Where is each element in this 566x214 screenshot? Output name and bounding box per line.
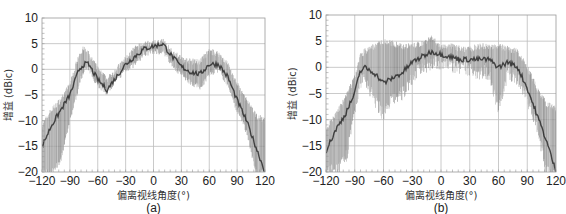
x-tick-label: 60 [203,174,217,188]
x-tick-label: 120 [546,174,566,188]
x-tick-label: 0 [438,174,445,188]
x-tick-label: −90 [60,174,81,188]
chart-panel-a: 1050−5−10−15−20−120−90−60−300306090120偏离… [2,11,275,214]
y-tick-label: 0 [31,62,38,76]
x-tick-label: −30 [402,174,423,188]
x-tick-label: 0 [150,174,157,188]
y-tick-label: −15 [18,139,39,153]
y-tick-label: 10 [309,8,323,22]
y-tick-label: 5 [31,37,38,51]
panel-label: (a) [146,201,161,214]
x-tick-label: 30 [175,174,189,188]
x-tick-label: −90 [345,174,366,188]
y-axis-label: 增益 (dBic) [2,69,14,122]
x-tick-label: −60 [88,174,109,188]
y-tick-label: 10 [25,11,39,25]
chart-panel-b: 1050−5−10−15−20−120−90−60−300306090120偏离… [286,8,566,214]
y-tick-label: −15 [302,139,323,153]
y-tick-label: −5 [308,87,322,101]
x-tick-label: 120 [255,174,275,188]
y-tick-label: −10 [302,113,323,127]
y-tick-label: 0 [315,60,322,74]
y-axis-label: 增益 (dBic) [286,67,298,120]
x-tick-label: −120 [312,174,339,188]
y-tick-label: −5 [24,88,38,102]
x-tick-label: 90 [521,174,535,188]
x-tick-label: 90 [230,174,244,188]
chart-figure: 1050−5−10−15−20−120−90−60−300306090120偏离… [0,0,566,214]
y-tick-label: 5 [315,34,322,48]
x-tick-label: −120 [28,174,55,188]
x-axis-label: 偏离视线角度(°) [117,189,190,201]
x-tick-label: 60 [492,174,506,188]
x-tick-label: −60 [373,174,394,188]
x-tick-label: −30 [115,174,136,188]
y-tick-label: −10 [18,114,39,128]
panel-label: (b) [434,201,449,214]
x-axis-label: 偏离视线角度(°) [405,189,478,201]
x-tick-label: 30 [463,174,477,188]
